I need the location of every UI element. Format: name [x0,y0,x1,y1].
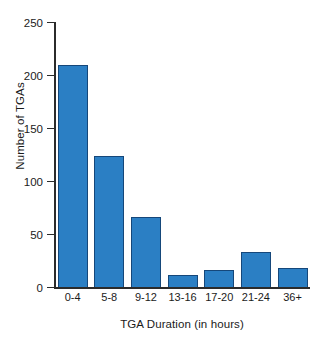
bar-slot [278,22,308,287]
y-axis-tick: 250 [47,22,54,23]
y-axis-tick-label: 200 [24,70,43,82]
y-axis-tick-label: 100 [24,176,43,188]
bar-slot [168,22,198,287]
x-axis-tick-label: 36+ [278,291,308,303]
x-axis-tick-label: 13-16 [168,291,198,303]
x-axis-tick-label: 0-4 [58,291,88,303]
x-axis-tick-label: 17-20 [204,291,234,303]
bar-slot [204,22,234,287]
bar-slot [241,22,271,287]
x-axis-tick-labels: 0-45-89-1213-1617-2021-2436+ [56,291,310,303]
y-axis-tick: 0 [47,287,54,288]
x-axis-line [54,287,310,289]
y-axis-tick-label: 50 [30,229,43,241]
y-axis-tick-label: 250 [24,17,43,29]
y-axis-tick: 100 [47,181,54,182]
x-axis-tick-label: 21-24 [241,291,271,303]
bar[interactable] [241,252,271,287]
bar[interactable] [58,65,88,287]
x-axis-title: TGA Duration (in hours) [54,318,310,330]
plot-area: 050100150200250 [54,22,310,287]
bar-chart-figure: Number of TGAs 050100150200250 0-45-89-1… [0,0,331,343]
bar-series [56,22,310,287]
y-axis-tick-label: 150 [24,123,43,135]
bar-slot [94,22,124,287]
bar[interactable] [278,268,308,287]
bar-slot [131,22,161,287]
y-axis-tick: 150 [47,128,54,129]
y-axis-tick-label: 0 [37,282,43,294]
x-axis-tick-label: 5-8 [94,291,124,303]
x-axis-tick-label: 9-12 [131,291,161,303]
y-axis-tick: 50 [47,234,54,235]
bar[interactable] [204,270,234,287]
y-axis-tick: 200 [47,75,54,76]
bar[interactable] [168,275,198,287]
bar[interactable] [94,156,124,287]
bar[interactable] [131,217,161,287]
bar-slot [58,22,88,287]
